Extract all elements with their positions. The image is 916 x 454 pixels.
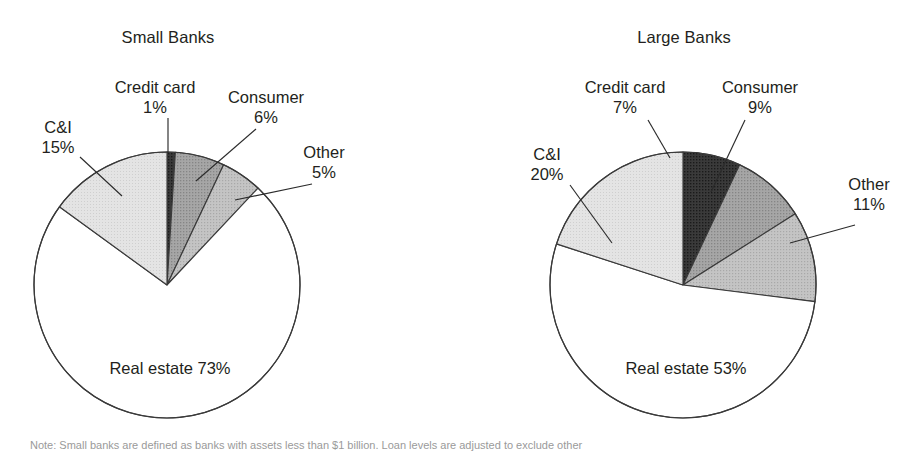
slice-label-percent: 5% <box>303 163 344 183</box>
slice-label-percent: 53% <box>714 359 747 377</box>
slice-label-small-ci: C&I 15% <box>41 118 74 157</box>
slice-label-percent: 9% <box>722 98 798 118</box>
pie-chart-graphics <box>0 0 916 454</box>
slice-label-small-consumer: Consumer 6% <box>228 88 304 127</box>
figure-canvas: Small Banks Large Banks Credit card 1% C… <box>0 0 916 454</box>
slice-label-name: C&I <box>41 118 74 138</box>
slice-label-name: Other <box>303 143 344 163</box>
slice-label-percent: 73% <box>198 359 231 377</box>
slice-label-large-real-estate: Real estate 53% <box>625 358 746 378</box>
slice-label-percent: 7% <box>585 98 666 118</box>
slice-label-small-real-estate: Real estate 73% <box>109 358 230 378</box>
slice-label-small-other: Other 5% <box>303 143 344 182</box>
slice-label-name: Consumer <box>722 78 798 98</box>
slice-label-name: Credit card <box>585 78 666 98</box>
slice-label-large-ci: C&I 20% <box>530 145 563 184</box>
slice-label-name: Real estate <box>109 359 192 377</box>
slice-label-percent: 11% <box>848 195 889 215</box>
slice-label-name: C&I <box>530 145 563 165</box>
slice-label-name: Real estate <box>625 359 708 377</box>
slice-label-percent: 20% <box>530 165 563 185</box>
slice-label-small-credit-card: Credit card 1% <box>115 78 196 117</box>
slice-label-name: Credit card <box>115 78 196 98</box>
slice-label-percent: 15% <box>41 138 74 158</box>
slice-label-name: Other <box>848 175 889 195</box>
slice-label-percent: 1% <box>115 98 196 118</box>
leader-large-credit-card <box>648 120 670 158</box>
slice-label-large-credit-card: Credit card 7% <box>585 78 666 117</box>
pie-large-banks <box>550 152 816 418</box>
pie-small-banks <box>34 152 300 418</box>
slice-label-name: Consumer <box>228 88 304 108</box>
slice-label-large-other: Other 11% <box>848 175 889 214</box>
slice-label-large-consumer: Consumer 9% <box>722 78 798 117</box>
slice-label-percent: 6% <box>228 108 304 128</box>
figure-footnote: Note: Small banks are defined as banks w… <box>30 439 890 452</box>
